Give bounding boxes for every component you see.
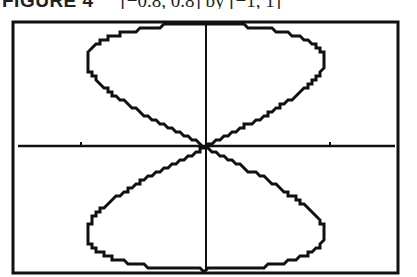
calculator-graph: [0, 0, 417, 277]
